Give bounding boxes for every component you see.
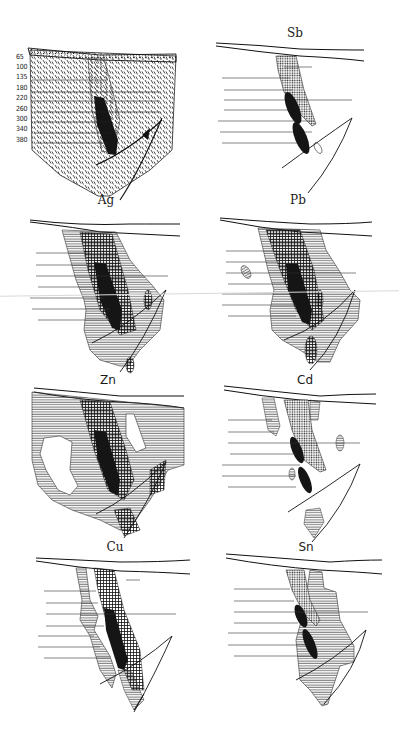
cu-distribution-drawing [0, 540, 200, 748]
panel-cd: Cd [200, 370, 399, 545]
panel-cu: Cu [0, 540, 200, 748]
ag-distribution-drawing [0, 190, 200, 370]
panel-zn: Zn [0, 370, 200, 545]
panel-pb: Pb [200, 190, 399, 370]
cd-distribution-drawing [200, 370, 399, 545]
panel-sn: Sn [200, 540, 399, 748]
geology-section-drawing [0, 0, 200, 200]
sb-distribution-drawing [200, 0, 399, 200]
zn-distribution-drawing [0, 370, 200, 545]
pb-distribution-drawing [200, 190, 399, 370]
panel-geology-section: 65 100 135 180 220 260 300 340 380 [0, 0, 200, 200]
panel-ag: Ag [0, 190, 200, 370]
sn-distribution-drawing [200, 540, 399, 748]
panel-sb: Sb [200, 0, 399, 200]
